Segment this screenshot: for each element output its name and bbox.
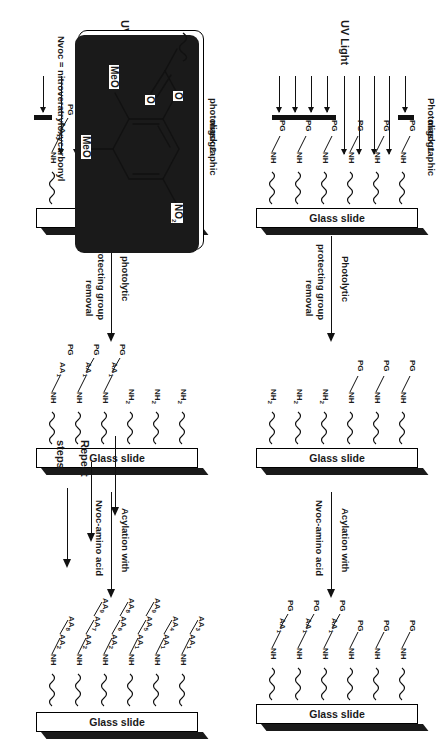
repeat-label-line1: Repeat bbox=[78, 440, 90, 477]
aa-base: AA bbox=[119, 616, 128, 628]
nh2-sub: 2 bbox=[319, 401, 326, 404]
linker-squiggle bbox=[252, 666, 412, 706]
aa-base: AA bbox=[171, 616, 180, 628]
nh2-label: NH2 bbox=[293, 389, 303, 404]
nh2-sub: 2 bbox=[267, 401, 274, 404]
uv-ray bbox=[295, 76, 296, 112]
aa1-label: AA1 bbox=[56, 362, 66, 377]
uv-ray bbox=[311, 76, 312, 112]
aa-label: AA4 bbox=[169, 616, 179, 631]
nh2-label: NH2 bbox=[267, 389, 277, 404]
pg-label: PG bbox=[408, 620, 416, 632]
carbonyl-oxygen-label: O bbox=[145, 95, 155, 105]
linker-squiggle bbox=[252, 170, 412, 210]
meo-label-top: MeO bbox=[109, 65, 119, 89]
aa-label: AA1 bbox=[134, 634, 144, 649]
aa-label: AA1 bbox=[186, 634, 196, 649]
aa-base: AA bbox=[278, 618, 287, 630]
deprotection-2-line3: removal bbox=[84, 280, 94, 316]
aa-base: AA bbox=[58, 362, 67, 374]
aa-base: AA bbox=[101, 598, 110, 610]
slide-edge bbox=[261, 468, 428, 475]
ester-oxygen-label: O bbox=[173, 91, 183, 101]
pg-label: PG bbox=[330, 120, 338, 132]
nvoc-structure-box: O O NO2 MeO MeO bbox=[78, 30, 204, 250]
substrate-assembly: NH NH NH NH NH NH PG PG PG PG bbox=[244, 132, 424, 232]
aa-label: AA6 bbox=[117, 616, 127, 631]
slide-edge bbox=[261, 724, 428, 731]
aa1-label: AA1 bbox=[302, 618, 312, 633]
aa-base: AA bbox=[127, 598, 136, 610]
uv-ray bbox=[327, 76, 328, 112]
nvoc-legend: Nvoc = nitroveratryloxycarbonyl bbox=[56, 36, 66, 181]
aa1-label: AA1 bbox=[82, 362, 92, 377]
no2-base: NO bbox=[173, 204, 184, 219]
deprotection-1-line3: removal bbox=[304, 280, 314, 316]
no2-sub: 2 bbox=[171, 219, 178, 222]
aa1-label: AA1 bbox=[328, 618, 338, 633]
nh2-sub: 2 bbox=[125, 401, 132, 404]
slide-edge bbox=[41, 732, 208, 739]
pg-label: PG bbox=[382, 360, 390, 372]
pg-label: PG bbox=[286, 600, 294, 612]
nh2-sub: 2 bbox=[177, 401, 184, 404]
aa-label: AA3 bbox=[195, 616, 205, 631]
aa-base: AA bbox=[304, 618, 313, 630]
pg-label: PG bbox=[66, 104, 74, 116]
deprotection-2-line1: photolytic bbox=[120, 256, 130, 301]
panel-acylated-aa1: NH NH NH NH NH NH PG PG PG AA1 bbox=[234, 608, 424, 738]
glass-slide-label: Glass slide bbox=[89, 716, 144, 728]
uv-ray bbox=[279, 76, 280, 112]
glass-slide-label: Glass slide bbox=[309, 212, 364, 224]
pg-label: PG bbox=[92, 344, 100, 356]
photomask-1-label-2: mask 1 bbox=[426, 120, 436, 152]
aa-label: AA2 bbox=[82, 634, 92, 649]
repeat-steps-group: Repeat steps bbox=[26, 432, 146, 582]
uv-ray bbox=[43, 76, 44, 112]
aa-base: AA bbox=[188, 634, 197, 646]
uv-ray bbox=[405, 76, 406, 112]
repeat-arrow bbox=[91, 462, 92, 540]
photomask-2-label-2: mask 2 bbox=[208, 120, 218, 152]
linker-squiggle bbox=[252, 410, 412, 450]
pg-label: PG bbox=[66, 344, 74, 356]
nvoc-structure: O O NO2 MeO MeO bbox=[79, 31, 203, 249]
pg-label: PG bbox=[382, 620, 390, 632]
aa-label: AA8 bbox=[125, 598, 135, 613]
aa-label: AA2 bbox=[56, 634, 66, 649]
pg-label: PG bbox=[312, 600, 320, 612]
glass-slide: Glass slide bbox=[36, 712, 198, 732]
acylation-line2: Nvoc-amino acid bbox=[314, 500, 324, 576]
pg-label: PG bbox=[408, 360, 416, 372]
panel-uv-exposure-mask-1: UV Light Photoligographic mask 1 bbox=[234, 20, 424, 230]
repeat-arrow bbox=[67, 488, 68, 566]
pg-label: PG bbox=[338, 600, 346, 612]
aa-base: AA bbox=[197, 616, 206, 628]
nh2-base: NH bbox=[295, 389, 304, 401]
aa-base: AA bbox=[58, 634, 67, 646]
aa-base: AA bbox=[84, 362, 93, 374]
nh2-base: NH bbox=[269, 389, 278, 401]
pg-label: PG bbox=[304, 120, 312, 132]
aa1-label: AA1 bbox=[276, 618, 286, 633]
aa1-label: AA1 bbox=[108, 362, 118, 377]
acylation-line1: Acylation with bbox=[340, 508, 350, 572]
nh-pg-bonds bbox=[318, 372, 418, 398]
nh2-sub: 2 bbox=[293, 401, 300, 404]
aa-base: AA bbox=[145, 616, 154, 628]
aa-base: AA bbox=[110, 634, 119, 646]
glass-slide-label: Glass slide bbox=[309, 452, 364, 464]
glass-slide-label: Glass slide bbox=[309, 708, 364, 720]
linker-squiggle bbox=[32, 672, 192, 712]
aa-label: AA9 bbox=[99, 598, 109, 613]
pg-label: PG bbox=[356, 620, 364, 632]
glass-slide: Glass slide bbox=[256, 448, 418, 468]
aa-label: AA8 bbox=[65, 616, 75, 631]
aa-label: AA1 bbox=[160, 634, 170, 649]
acylation-arrow-1 bbox=[331, 492, 332, 596]
deprotection-2-line2: protecting group bbox=[96, 244, 106, 320]
aa-label: AA9 bbox=[151, 598, 161, 613]
deprotection-arrow-1 bbox=[331, 236, 332, 340]
nh-pg-bonds bbox=[248, 132, 418, 158]
